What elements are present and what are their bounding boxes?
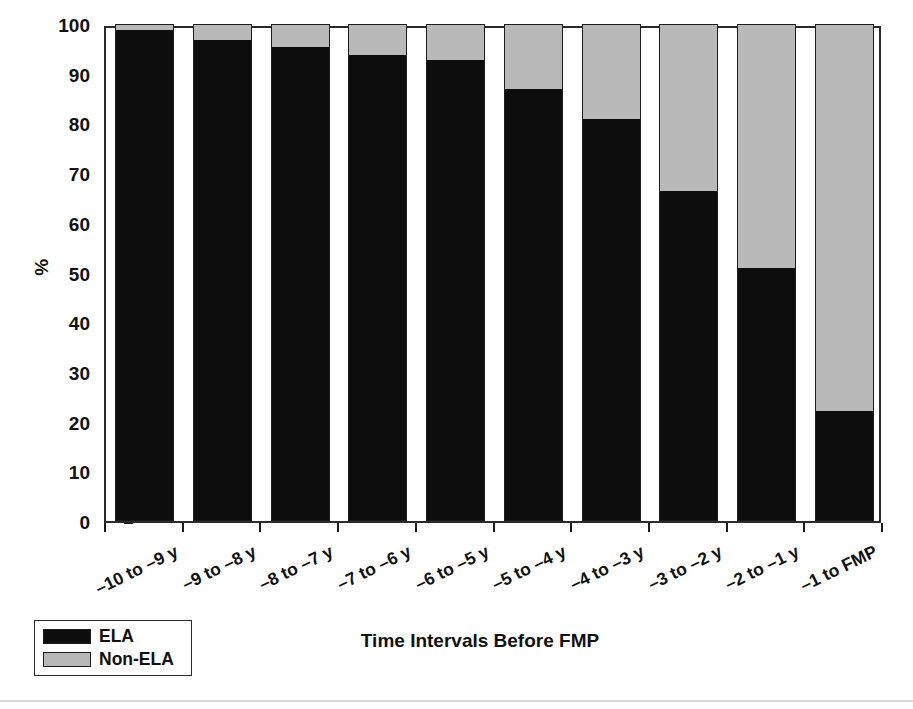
bar-segment-non-ela[interactable] [272, 25, 329, 47]
bar-segment-ela[interactable] [349, 55, 406, 520]
bar-segment-ela[interactable] [272, 47, 329, 520]
y-tick-label: 70 [32, 165, 90, 184]
y-tick-label: 20 [32, 414, 90, 433]
bars-container [106, 28, 879, 521]
x-axis-tick-group [104, 523, 881, 533]
bar-slot [572, 28, 650, 521]
bar-segment-ela[interactable] [116, 30, 173, 520]
y-axis-tick-group: 0102030405060708090100 [28, 0, 90, 709]
y-tick-label: 30 [32, 364, 90, 383]
bar-segment-non-ela[interactable] [583, 25, 640, 119]
bar-slot [495, 28, 573, 521]
bar-slot [650, 28, 728, 521]
bar-segment-non-ela[interactable] [194, 25, 251, 40]
stacked-bar[interactable] [193, 24, 252, 521]
bar-segment-ela[interactable] [194, 40, 251, 520]
bar-slot [261, 28, 339, 521]
legend-swatch [43, 629, 91, 644]
bar-segment-ela[interactable] [660, 191, 717, 520]
legend-label: ELA [99, 628, 134, 646]
y-tick-label: 0 [32, 513, 90, 532]
x-tick-mark [570, 523, 572, 532]
stacked-bar[interactable] [348, 24, 407, 521]
y-tick-label: 80 [32, 115, 90, 134]
x-tick-mark [337, 523, 339, 532]
figure-canvas: % 0102030405060708090100 –10 to –9 y–9 t… [0, 0, 913, 709]
x-tick-label: –1 to FMP [692, 541, 881, 648]
bar-segment-non-ela[interactable] [505, 25, 562, 89]
bar-segment-non-ela[interactable] [660, 25, 717, 191]
stacked-bar[interactable] [271, 24, 330, 521]
stacked-bar[interactable] [115, 24, 174, 521]
stacked-bar[interactable] [582, 24, 641, 521]
x-tick-mark [493, 523, 495, 532]
y-tick-label: 90 [32, 66, 90, 85]
stacked-bar[interactable] [737, 24, 796, 521]
stacked-bar[interactable] [815, 24, 874, 521]
x-axis-title: Time Intervals Before FMP [330, 630, 630, 652]
x-tick-mark [881, 523, 883, 532]
bar-slot [339, 28, 417, 521]
y-tick-label: 50 [32, 265, 90, 284]
x-tick-mark [182, 523, 184, 532]
plot-area [104, 26, 881, 523]
x-tick-mark [726, 523, 728, 532]
bar-slot [184, 28, 262, 521]
y-tick-label: 100 [32, 16, 90, 35]
legend-entry[interactable]: ELA [43, 627, 183, 647]
bar-slot [106, 28, 184, 521]
stacked-bar[interactable] [659, 24, 718, 521]
legend-swatch [43, 652, 91, 667]
x-tick-mark [415, 523, 417, 532]
x-tick-label: –2 to –1 y [614, 541, 803, 648]
stacked-bar[interactable] [426, 24, 485, 521]
bar-segment-ela[interactable] [427, 60, 484, 520]
y-tick-label: 40 [32, 314, 90, 333]
scan-artifact [0, 700, 913, 702]
bar-segment-non-ela[interactable] [738, 25, 795, 268]
bar-slot [728, 28, 806, 521]
y-tick-label: 60 [32, 215, 90, 234]
x-tick-mark [648, 523, 650, 532]
legend-label: Non-ELA [99, 651, 174, 669]
bar-slot [417, 28, 495, 521]
bar-segment-ela[interactable] [816, 411, 873, 520]
bar-segment-non-ela[interactable] [816, 25, 873, 411]
bar-segment-ela[interactable] [505, 89, 562, 520]
legend-entry[interactable]: Non-ELA [43, 650, 183, 670]
bar-segment-ela[interactable] [738, 268, 795, 520]
bar-segment-non-ela[interactable] [427, 25, 484, 60]
stacked-bar[interactable] [504, 24, 563, 521]
x-tick-mark [803, 523, 805, 532]
y-tick-label: 10 [32, 463, 90, 482]
x-tick-mark [259, 523, 261, 532]
bar-slot [805, 28, 883, 521]
chart-legend: ELANon-ELA [34, 620, 192, 676]
x-tick-mark [104, 523, 106, 532]
bar-segment-non-ela[interactable] [349, 25, 406, 55]
bar-segment-ela[interactable] [583, 119, 640, 520]
